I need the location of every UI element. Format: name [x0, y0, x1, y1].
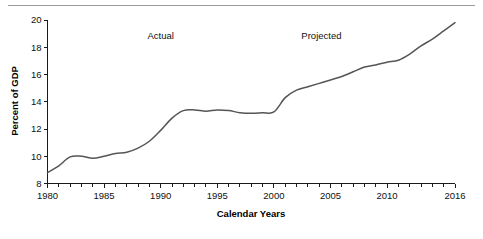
y-tick-label: 14 — [31, 96, 42, 107]
x-axis-tick-labels: 19801985199019952000200520102016 — [37, 190, 466, 201]
y-tick-label: 10 — [31, 151, 42, 162]
y-axis-tick-labels: 8101214161820 — [31, 14, 42, 189]
x-tick-label: 2010 — [377, 190, 398, 201]
x-tick-label: 1995 — [207, 190, 228, 201]
chart-annotations: ActualProjected — [147, 30, 341, 41]
gdp-data-line — [48, 23, 456, 173]
x-tick-label: 1985 — [94, 190, 115, 201]
gdp-line-chart: 8101214161820 19801985199019952000200520… — [0, 0, 483, 239]
x-tick-label: 1990 — [150, 190, 171, 201]
chart-figure: 8101214161820 19801985199019952000200520… — [0, 0, 483, 239]
y-axis-ticks — [44, 20, 48, 184]
y-tick-label: 16 — [31, 69, 42, 80]
x-axis-title: Calendar Years — [217, 208, 285, 219]
x-tick-label: 2000 — [263, 190, 284, 201]
x-tick-label: 2005 — [320, 190, 341, 201]
y-tick-label: 18 — [31, 42, 42, 53]
y-tick-label: 8 — [36, 178, 41, 189]
x-tick-label: 1980 — [37, 190, 58, 201]
y-tick-label: 12 — [31, 123, 42, 134]
annotation-actual: Actual — [147, 30, 173, 41]
x-tick-label: 2016 — [444, 190, 465, 201]
x-axis-ticks — [48, 184, 456, 189]
annotation-projected: Projected — [301, 30, 341, 41]
y-axis-title: Percent of GDP — [9, 65, 20, 135]
y-tick-label: 20 — [31, 14, 42, 25]
